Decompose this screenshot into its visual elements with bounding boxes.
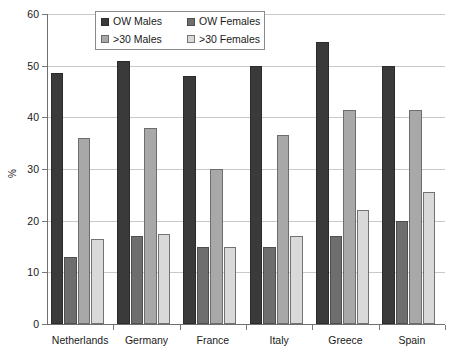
y-tick-label: 0 — [19, 319, 39, 329]
legend-label: >30 Females — [199, 34, 260, 45]
bar — [197, 247, 210, 325]
bar — [357, 210, 370, 324]
bar — [382, 66, 395, 324]
bar — [131, 236, 144, 324]
bar — [343, 110, 356, 324]
x-tick-mark — [246, 325, 247, 330]
chart-legend: OW MalesOW Females>30 Males>30 Females — [95, 11, 265, 50]
bar — [409, 110, 422, 324]
y-tick-label: 20 — [19, 216, 39, 226]
y-tick-label: 10 — [19, 267, 39, 277]
legend-entry: >30 Females — [187, 34, 271, 45]
x-axis-category-label: Germany — [113, 334, 179, 346]
legend-swatch — [101, 18, 109, 26]
x-axis-category-label: Greece — [312, 334, 378, 346]
bar-chart: % 0102030405060 NetherlandsGermanyFrance… — [0, 0, 450, 358]
legend-label: OW Females — [199, 16, 260, 27]
y-tick-label: 50 — [19, 61, 39, 71]
y-tick-label: 40 — [19, 112, 39, 122]
bar — [290, 236, 303, 324]
bar — [330, 236, 343, 324]
legend-swatch — [187, 35, 195, 43]
bar — [117, 61, 130, 325]
bar — [250, 66, 263, 324]
bar — [144, 128, 157, 324]
legend-swatch — [101, 35, 109, 43]
x-tick-mark — [312, 325, 313, 330]
legend-label: OW Males — [113, 16, 162, 27]
legend-swatch — [187, 18, 195, 26]
bar-group — [183, 14, 236, 324]
bar — [64, 257, 77, 324]
x-tick-mark — [379, 325, 380, 330]
bar — [224, 247, 237, 325]
x-tick-mark — [445, 325, 446, 330]
bar — [51, 73, 64, 324]
y-tick-label: 30 — [19, 164, 39, 174]
bar — [277, 135, 290, 324]
x-axis-category-label: France — [180, 334, 246, 346]
legend-entry: OW Males — [101, 16, 187, 27]
x-axis-category-label: Italy — [246, 334, 312, 346]
plot-area: NetherlandsGermanyFranceItalyGreeceSpain — [47, 14, 445, 324]
y-tick-label: 60 — [19, 9, 39, 19]
bar — [210, 169, 223, 324]
bar — [263, 247, 276, 325]
bar — [158, 234, 171, 324]
bar — [78, 138, 91, 324]
legend-entry: >30 Males — [101, 34, 187, 45]
bar — [183, 76, 196, 324]
bar — [316, 42, 329, 324]
x-tick-mark — [180, 325, 181, 330]
y-axis-title: % — [7, 169, 18, 178]
x-tick-mark — [113, 325, 114, 330]
bar — [396, 221, 409, 324]
x-axis-category-label: Netherlands — [47, 334, 113, 346]
x-axis-category-label: Spain — [379, 334, 445, 346]
bar — [91, 239, 104, 324]
legend-label: >30 Males — [113, 34, 162, 45]
bar-group — [382, 14, 435, 324]
bar — [423, 192, 436, 324]
bar-group — [250, 14, 303, 324]
bar-group — [316, 14, 369, 324]
legend-entry: OW Females — [187, 16, 271, 27]
bar-group — [117, 14, 170, 324]
bar-group — [51, 14, 104, 324]
